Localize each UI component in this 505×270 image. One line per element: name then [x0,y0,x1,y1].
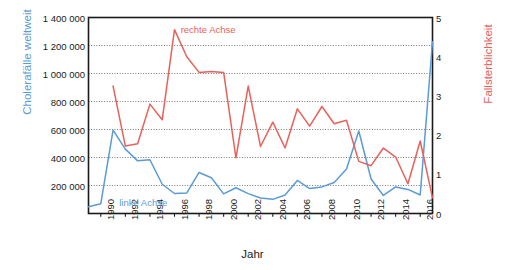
x-axis-tick-label: 2010 [351,198,362,219]
y-axis-left-tick-label: 1 400 000 [43,12,85,23]
x-axis-tick-label: 2014 [400,198,411,219]
y-axis-left-tick-label: 600 000 [51,124,85,135]
y-axis-left-ticks: 200 000400 000600 000800 0001 000 0001 2… [0,0,85,270]
x-axis-tick-label: 2016 [424,198,435,219]
x-axis-tick-label: 1998 [203,198,214,219]
x-axis-tick-label: 1990 [105,198,116,219]
y-axis-left-tick-label: 1 000 000 [43,68,85,79]
y-axis-left-tick-label: 400 000 [51,152,85,163]
y-axis-right-tick-label: 4 [436,51,441,62]
x-axis-tick-label: 2004 [277,198,288,219]
series-line-right [113,30,432,198]
y-axis-right-tick-label: 2 [436,130,441,141]
y-axis-right-tick-label: 3 [436,90,441,101]
annotation-rechte-achse: rechte Achse [181,24,236,35]
annotation-linke-achse: linke Achse [119,197,167,208]
y-axis-left-tick-label: 800 000 [51,96,85,107]
x-axis-tick-label: 2008 [326,198,337,219]
x-axis-tick-label: 2000 [228,198,239,219]
plot-frame [89,18,433,214]
y-axis-right-tick-label: 1 [436,169,441,180]
y-axis-left-tick-label: 200 000 [51,180,85,191]
series-line-left [89,42,433,207]
x-axis-tick-label: 1996 [179,198,190,219]
y-axis-right-ticks: 012345 [436,0,466,270]
y-axis-right-title: Fallsterblichkeit [482,0,494,154]
y-axis-right-tick-label: 5 [436,12,441,23]
x-axis-tick-label: 2012 [375,198,386,219]
x-axis-tick-label: 2006 [301,198,312,219]
x-axis-tick-label: 2002 [252,198,263,219]
chart-figure: Cholerafälle weltweit Fallsterblichkeit … [0,0,505,270]
y-axis-right-tick-label: 0 [436,208,441,219]
y-axis-left-tick-label: 1 200 000 [43,40,85,51]
